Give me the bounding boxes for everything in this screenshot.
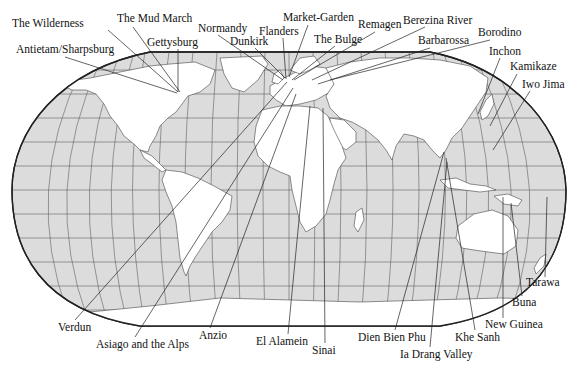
label-flanders: Flanders xyxy=(259,25,299,37)
map-svg: The WildernessThe Mud MarchGettysburgAnt… xyxy=(0,0,575,369)
label-ia-drang: Ia Drang Valley xyxy=(400,348,473,361)
label-iwo-jima: Iwo Jima xyxy=(522,78,564,90)
label-tarawa: Tarawa xyxy=(526,276,560,288)
label-el-alamein: El Alamein xyxy=(256,335,308,347)
label-asiago: Asiago and the Alps xyxy=(96,338,189,351)
label-buna: Buna xyxy=(512,296,536,308)
label-normandy: Normandy xyxy=(198,22,247,35)
label-the-bulge: The Bulge xyxy=(314,33,362,46)
label-anzio: Anzio xyxy=(199,329,227,341)
label-dien-bien-phu: Dien Bien Phu xyxy=(358,331,426,343)
label-khe-sanh: Khe Sanh xyxy=(455,331,500,343)
label-antietam: Antietam/Sharpsburg xyxy=(16,43,114,56)
label-inchon: Inchon xyxy=(489,45,521,57)
label-verdun: Verdun xyxy=(58,321,91,333)
label-kamikaze: Kamikaze xyxy=(510,60,557,72)
label-market-garden: Market-Garden xyxy=(283,11,354,23)
label-the-mud-march: The Mud March xyxy=(117,12,193,24)
label-remagen: Remagen xyxy=(358,18,402,31)
battle-world-map: The WildernessThe Mud MarchGettysburgAnt… xyxy=(0,0,575,369)
label-the-wilderness: The Wilderness xyxy=(12,17,84,29)
label-gettysburg: Gettysburg xyxy=(147,36,198,49)
label-borodino: Borodino xyxy=(478,26,522,38)
label-new-guinea: New Guinea xyxy=(485,318,543,330)
label-sinai: Sinai xyxy=(312,344,336,356)
label-barbarossa: Barbarossa xyxy=(418,34,469,46)
label-berezina: Berezina River xyxy=(403,14,472,26)
